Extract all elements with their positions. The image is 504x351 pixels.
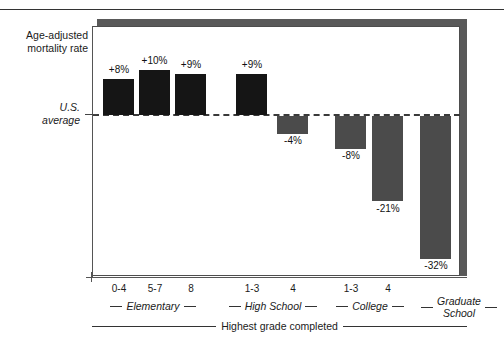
x-caption-rule-right bbox=[343, 326, 467, 327]
plot-shadow-top bbox=[97, 19, 467, 26]
tick-label-highschool-1-3: 1-3 bbox=[232, 283, 272, 294]
bar-value-label-6: -21% bbox=[366, 203, 410, 214]
figure-top-rule bbox=[0, 9, 504, 10]
x-caption-text: Highest grade completed bbox=[221, 320, 338, 332]
group-text-graduate-line2: School bbox=[437, 307, 481, 319]
group-label-graduate-school: Graduate School bbox=[415, 295, 503, 319]
bar-value-label-0: +8% bbox=[99, 64, 139, 75]
group-dash-left-college bbox=[336, 306, 348, 307]
group-dash-left-elementary bbox=[110, 306, 122, 307]
x-axis-caption: Highest grade completed bbox=[92, 320, 467, 332]
bar-value-label-7: -32% bbox=[414, 260, 458, 271]
tick-label-elementary-8: 8 bbox=[171, 283, 211, 294]
bar-value-label-4: -4% bbox=[273, 135, 313, 146]
tick-label-highschool-4: 4 bbox=[273, 283, 313, 294]
x-axis-origin-tick bbox=[91, 272, 92, 282]
us-average-label: U.S. average bbox=[8, 101, 80, 127]
x-caption-rule-left bbox=[92, 326, 216, 327]
bar-value-label-1: +10% bbox=[134, 55, 175, 66]
us-average-baseline bbox=[93, 114, 460, 116]
x-axis-line bbox=[86, 277, 467, 278]
group-text-college: College bbox=[352, 300, 388, 312]
group-text-graduate-line1: Graduate bbox=[437, 295, 481, 307]
bar-value-label-2: +9% bbox=[171, 59, 211, 70]
group-text-elementary: Elementary bbox=[126, 300, 179, 312]
us-average-label-line1: U.S. bbox=[8, 101, 80, 114]
group-dash-right-graduate-school bbox=[485, 307, 497, 308]
tick-label-college-4: 4 bbox=[368, 283, 408, 294]
group-dash-left-graduate-school bbox=[421, 307, 433, 308]
group-text-graduate-school: Graduate School bbox=[437, 295, 481, 319]
tick-label-elementary-5-7: 5-7 bbox=[135, 283, 175, 294]
group-text-high-school: High School bbox=[245, 300, 302, 312]
group-dash-right-elementary bbox=[184, 306, 196, 307]
group-label-high-school: High School bbox=[222, 300, 324, 312]
bar-value-label-3: +9% bbox=[232, 59, 272, 70]
y-axis-title: Age-adjusted mortality rate bbox=[8, 29, 88, 55]
plot-shadow-right bbox=[460, 19, 467, 276]
mortality-by-education-chart: Age-adjusted mortality rate U.S. average… bbox=[0, 0, 504, 351]
y-axis-title-line1: Age-adjusted bbox=[8, 29, 88, 42]
group-dash-left-high-school bbox=[229, 306, 241, 307]
group-label-college: College bbox=[320, 300, 420, 312]
y-axis-line bbox=[92, 26, 93, 278]
group-dash-right-college bbox=[392, 306, 404, 307]
tick-label-college-1-3: 1-3 bbox=[331, 283, 371, 294]
group-label-elementary: Elementary bbox=[92, 300, 214, 312]
us-average-label-line2: average bbox=[8, 114, 80, 127]
y-axis-title-line2: mortality rate bbox=[8, 42, 88, 55]
group-dash-right-high-school bbox=[305, 306, 317, 307]
tick-label-elementary-0-4: 0-4 bbox=[99, 283, 139, 294]
us-average-baseline-tick bbox=[85, 114, 97, 115]
bar-value-label-5: -8% bbox=[331, 150, 371, 161]
